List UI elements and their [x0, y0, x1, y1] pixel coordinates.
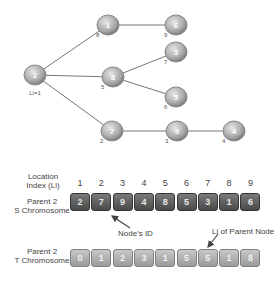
annotation-arrows: [0, 0, 280, 281]
